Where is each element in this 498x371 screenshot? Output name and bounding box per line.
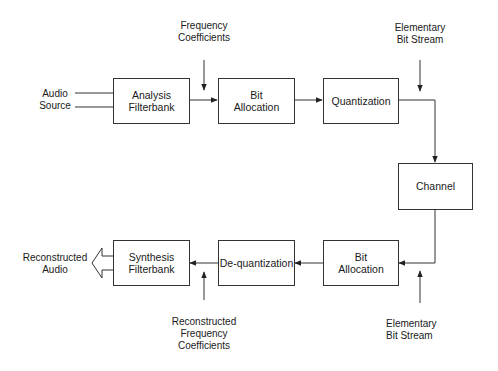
analysis-filterbank-block: AnalysisFilterbank <box>113 78 190 124</box>
bit-allocation-encoder-block: BitAllocation <box>218 78 295 124</box>
elementary-bitstream-top-label: Elementary Bit Stream <box>385 22 455 46</box>
reconstructed-frequency-coefficients-label: Reconstructed Frequency Coefficients <box>164 316 244 352</box>
audio-output-arrow <box>92 248 113 278</box>
frequency-coefficients-label: Frequency Coefficients <box>164 20 244 44</box>
arrow-channel-to-bitalloc <box>399 209 435 263</box>
reconstructed-audio-label: Reconstructed Audio <box>20 252 90 276</box>
arrow-quant-to-channel <box>398 100 435 162</box>
bit-allocation-decoder-block: BitAllocation <box>323 240 399 286</box>
channel-block: Channel <box>398 163 473 210</box>
audio-source-label: Audio Source <box>36 88 74 112</box>
quantization-block: Quantization <box>323 78 399 124</box>
synthesis-filterbank-block: SynthesisFilterbank <box>113 240 190 286</box>
elementary-bitstream-bottom-label: Elementary Bit Stream <box>386 318 456 342</box>
dequantization-block: De-quantization <box>218 240 295 286</box>
